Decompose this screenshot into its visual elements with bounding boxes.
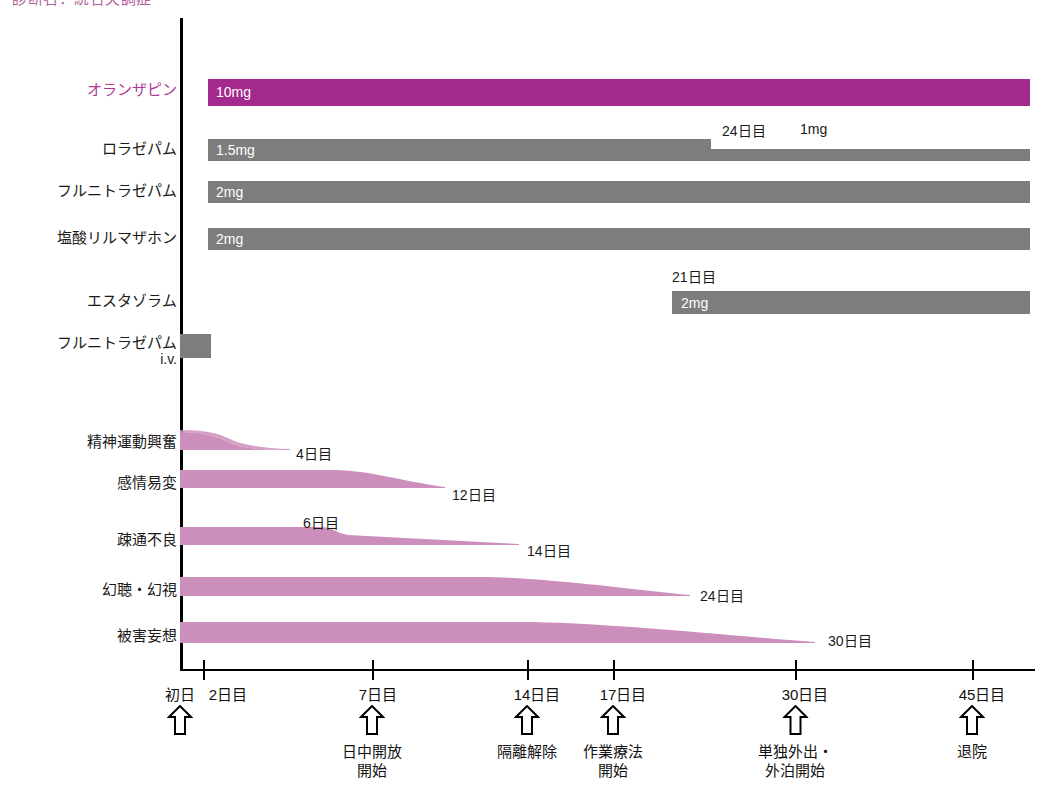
up-arrow-icon — [583, 705, 643, 739]
bar-dose-olanzapine: 10mg — [216, 85, 251, 99]
event-label-solo-outing-line1: 単独外出・ — [758, 743, 833, 762]
bar-flunitrazepam-iv — [180, 334, 211, 358]
axis-label-day-first: 初日 — [165, 683, 195, 704]
row-label-persecutory-delusion: 被害妄想 — [117, 627, 177, 644]
annotation-estazolam-start-day: 21日目 — [672, 266, 716, 286]
annotation-persecutory-delusion-end: 30日目 — [828, 630, 872, 650]
row-label-olanzapine: オランザピン — [87, 81, 177, 98]
row-label-hallucinations: 幻聴・幻視 — [102, 581, 177, 598]
bar-estazolam — [672, 291, 1030, 314]
annotation-poor-communication-improve: 6日目 — [303, 512, 339, 532]
axis-label-day-7: 7日目 — [359, 683, 397, 704]
axis-label-day-45: 45日目 — [959, 683, 1006, 704]
event-label-daytime-open-line1: 日中開放 — [342, 743, 402, 762]
bar-dose-lorazepam: 1.5mg — [216, 143, 255, 157]
annotation-lorazepam-change-day: 24日目 — [722, 120, 766, 140]
bar-lorazepam-reduced — [711, 149, 1030, 161]
row-label-flunitrazepam-iv-main: フルニトラゼパム — [57, 334, 177, 351]
axis-label-day-14: 14日目 — [514, 683, 561, 704]
annotation-poor-communication-end: 14日目 — [527, 540, 571, 560]
row-label-poor-communication: 疎通不良 — [117, 531, 177, 548]
row-label-psychomotor-agitation: 精神運動興奮 — [87, 433, 177, 450]
annotation-lorazepam-new-dose: 1mg — [800, 121, 827, 137]
up-arrow-icon — [342, 705, 402, 739]
event-label-discharge: 退院 — [957, 743, 987, 762]
row-label-rilmazafone: 塩酸リルマザホン — [57, 229, 177, 246]
event-marker-treatment-start — [167, 705, 193, 743]
event-label-solo-outing-line2: 外泊開始 — [758, 762, 833, 781]
annotation-emotional-lability-end: 12日目 — [452, 484, 496, 504]
event-marker-isolation-release: 隔離解除 — [497, 705, 557, 762]
event-label-daytime-open-line2: 開始 — [342, 762, 402, 781]
axis-tick-day-17 — [613, 660, 615, 680]
axis-tick-day-7 — [372, 660, 374, 680]
event-label-isolation-release: 隔離解除 — [497, 743, 557, 762]
event-label-occupational-therapy-line1: 作業療法 — [583, 743, 643, 762]
up-arrow-icon — [758, 705, 833, 739]
annotation-psychomotor-agitation-end: 4日目 — [296, 443, 332, 463]
axis-tick-day-45 — [972, 660, 974, 680]
row-label-flunitrazepam: フルニトラゼパム — [57, 182, 177, 199]
row-label-flunitrazepam-iv: フルニトラゼパム i.v. — [57, 334, 177, 367]
bar-flunitrazepam — [208, 181, 1030, 203]
wedge-hallucinations — [180, 576, 700, 602]
bar-rilmazafone — [208, 228, 1030, 250]
axis-label-day-30: 30日目 — [782, 683, 829, 704]
row-label-lorazepam: ロラゼパム — [102, 140, 177, 157]
axis-label-day-2: 2日目 — [209, 683, 247, 704]
row-label-emotional-lability: 感情易変 — [117, 474, 177, 491]
page-title: 診断名：統合失調症 — [12, 0, 152, 8]
event-marker-solo-outing: 単独外出・ 外泊開始 — [758, 705, 833, 781]
row-label-flunitrazepam-iv-route: i.v. — [57, 351, 177, 367]
axis-tick-day-30 — [795, 660, 797, 680]
wedge-psychomotor-agitation — [180, 428, 300, 456]
bar-olanzapine — [208, 79, 1030, 106]
event-marker-daytime-open: 日中開放 開始 — [342, 705, 402, 781]
up-arrow-icon — [167, 705, 193, 739]
axis-label-day-17: 17日目 — [600, 683, 647, 704]
x-axis — [180, 669, 1035, 671]
up-arrow-icon — [957, 705, 987, 739]
axis-tick-day-2 — [203, 660, 205, 680]
annotation-hallucinations-end: 24日目 — [700, 585, 744, 605]
bar-lorazepam-initial — [208, 139, 711, 161]
event-marker-occupational-therapy: 作業療法 開始 — [583, 705, 643, 781]
bar-dose-estazolam: 2mg — [681, 296, 708, 310]
bar-dose-flunitrazepam: 2mg — [216, 185, 243, 199]
wedge-poor-communication — [180, 526, 525, 552]
wedge-persecutory-delusion — [180, 621, 825, 649]
up-arrow-icon — [497, 705, 557, 739]
bar-dose-rilmazafone: 2mg — [216, 232, 243, 246]
row-label-estazolam: エスタゾラム — [87, 292, 177, 309]
event-label-occupational-therapy-line2: 開始 — [583, 762, 643, 781]
treatment-timeline-chart: 診断名：統合失調症 オランザピン ロラゼパム フルニトラゼパム 塩酸リルマザホン… — [0, 0, 1051, 796]
event-marker-discharge: 退院 — [957, 705, 987, 762]
axis-tick-day-14 — [527, 660, 529, 680]
wedge-emotional-lability — [180, 468, 460, 494]
